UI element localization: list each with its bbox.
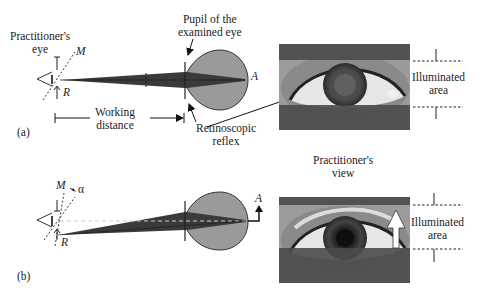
practitioner-eye-icon-a (37, 72, 52, 86)
panel-a-photo (279, 44, 410, 130)
dark-band-bottom-a (279, 105, 410, 130)
label-line: eye (10, 43, 70, 56)
illuminated-area-label-a: Illuminated area (412, 71, 465, 97)
label-line: Pupil of the (178, 13, 242, 26)
label-line: area (411, 229, 464, 242)
label-line: distance (95, 119, 135, 132)
panel-b-schematic (37, 188, 263, 250)
retinoscope-label-a: R (63, 86, 70, 99)
mirror-label-b: M (56, 179, 66, 192)
dark-band-bottom-b (279, 248, 410, 283)
label-line: examined eye (178, 26, 242, 39)
practitioners-view-label: Practitioner's view (313, 154, 373, 180)
label-line: view (313, 167, 373, 180)
panel-b-photo (279, 197, 410, 283)
retinoscopy-diagram (0, 0, 479, 300)
pupil-label: Pupil of the examined eye (178, 13, 242, 39)
mirror-a (43, 52, 75, 100)
label-line: Illuminated (411, 216, 464, 229)
working-distance-label: Working distance (95, 106, 135, 132)
mirror-label-a: M (76, 45, 86, 58)
panel-b-tag: (b) (17, 270, 30, 283)
retinoscope-label-b: R (61, 236, 68, 249)
label-line: Practitioner's (313, 154, 373, 167)
dark-band-top-a (279, 44, 410, 60)
label-line: Retinoscopic (196, 122, 256, 135)
label-line: reflex (196, 135, 256, 148)
retinoscopic-reflex-label: Retinoscopic reflex (196, 122, 256, 148)
label-line: Practitioner's (10, 30, 70, 43)
angle-alpha-label: α (78, 183, 84, 196)
label-line: Working (95, 106, 135, 119)
label-line: Illuminated (412, 71, 465, 84)
point-a-label-b: A (255, 192, 262, 205)
practitioners-eye-label: Practitioner's eye (10, 30, 70, 56)
panel-a-tag: (a) (17, 126, 30, 139)
illuminated-area-label-b: Illuminated area (411, 216, 464, 242)
point-a-label-a: A (251, 70, 258, 83)
dark-band-top-b (279, 197, 410, 205)
label-line: area (412, 84, 465, 97)
practitioner-eye-icon-b (37, 213, 52, 227)
